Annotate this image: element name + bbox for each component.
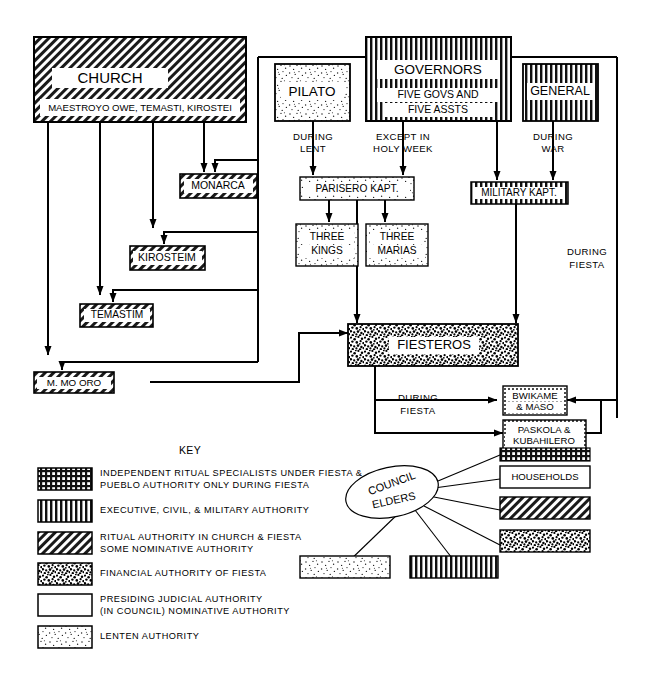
svg-text:FIESTA: FIESTA [400, 405, 435, 416]
node-kirosteim-label: KIROSTEIM [138, 251, 196, 263]
council-box-households-label: HOUSEHOLDS [511, 471, 578, 482]
edge-mmooro-fiesteros [150, 333, 348, 382]
node-pilato-label: PILATO [289, 84, 336, 99]
edge-spine-mmooro [62, 362, 258, 370]
key-label-diagonal-2: SOME NOMINATIVE AUTHORITY [100, 544, 254, 554]
node-paskola-label-1: PASKOLA & [518, 424, 571, 435]
node-parisero-label: PARISERO KAPT. [315, 183, 398, 194]
node-governors[interactable]: GOVERNORS FIVE GOVS AND FIVE ASSTS [366, 37, 511, 121]
node-temastim-label: TEMASTIM [91, 309, 144, 320]
council-box-lenten-stipple[interactable] [300, 556, 390, 578]
node-three-marias[interactable]: THREE MARIAS [366, 224, 428, 266]
edge-spine-temastim [113, 290, 258, 302]
edge-label-during-war: DURING WAR [533, 131, 573, 154]
node-church[interactable]: CHURCH MAESTROYO OWE, TEMASTI, KIROSTEI [34, 37, 246, 122]
node-bwikame-maso[interactable]: BWIKAME & MASO [503, 386, 567, 415]
node-m-mo-oro[interactable]: M. MO ORO [34, 372, 114, 393]
key-label-vertical: EXECUTIVE, CIVIL, & MILITARY AUTHORITY [100, 505, 309, 515]
node-military-kapt[interactable]: MILITARY KAPT. [471, 182, 568, 204]
key-label-lenten-stipple: LENTEN AUTHORITY [100, 631, 199, 641]
key-label-blank-2: (IN COUNCIL) NOMINATIVE AUTHORITY [100, 606, 290, 616]
svg-text:HOLY WEEK: HOLY WEEK [373, 143, 433, 154]
edge-label-during-fiesta-right: DURING FIESTA [567, 246, 607, 270]
council-box-households[interactable]: HOUSEHOLDS [500, 466, 590, 488]
council-box-crosshatch[interactable] [500, 448, 590, 461]
node-three-marias-label-2: MARIAS [377, 245, 416, 256]
node-fiesteros[interactable]: FIESTEROS [348, 324, 518, 366]
node-fiesteros-label: FIESTEROS [397, 337, 471, 352]
key-label-crosshatch-2: PUEBLO AUTHORITY ONLY DURING FIESTA [100, 480, 310, 490]
node-paskola-kubahilero[interactable]: PASKOLA & KUBAHILERO [503, 420, 586, 449]
node-bwikame-label-2: & MASO [516, 401, 553, 412]
edge-spine-kirosteim [164, 232, 258, 244]
node-paskola-label-2: KUBAHILERO [513, 435, 575, 446]
key-swatch-crosshatch [38, 468, 92, 490]
key-entry-blank: PRESIDING JUDICIAL AUTHORITY (IN COUNCIL… [38, 594, 290, 616]
key-swatch-vertical [38, 500, 92, 522]
edge-label-except-holy-week: EXCEPT IN HOLY WEEK [373, 131, 433, 154]
key-label-diagonal-1: RITUAL AUTHORITY IN CHURCH & FIESTA [100, 532, 302, 542]
svg-text:WAR: WAR [541, 143, 564, 154]
node-three-kings-label-1: THREE [310, 231, 345, 242]
key-swatch-diagonal [38, 532, 92, 554]
svg-text:LENT: LENT [300, 143, 326, 154]
key-heading: KEY [179, 444, 201, 456]
node-military-label: MILITARY KAPT. [481, 187, 557, 198]
key-entry-lenten-stipple: LENTEN AUTHORITY [38, 626, 199, 648]
node-bwikame-label-1: BWIKAME [512, 390, 557, 401]
node-pilato[interactable]: PILATO [275, 64, 350, 121]
edge-spine-monarca [215, 160, 258, 172]
node-governors-label: GOVERNORS [394, 62, 482, 77]
key-entry-vertical: EXECUTIVE, CIVIL, & MILITARY AUTHORITY [38, 500, 309, 522]
node-temastim[interactable]: TEMASTIM [80, 304, 153, 327]
node-kirosteim[interactable]: KIROSTEIM [130, 246, 205, 270]
key-swatch-blank [38, 594, 92, 616]
node-governors-sublabel-2: FIVE ASSTS [408, 103, 468, 115]
node-general-label: GENERAL [530, 84, 590, 98]
council-box-dense-stipple[interactable] [500, 530, 590, 552]
svg-text:DURING: DURING [533, 131, 573, 142]
edge-fiesteros-paskola [375, 365, 503, 433]
svg-text:EXCEPT IN: EXCEPT IN [376, 131, 430, 142]
node-monarca-label: MONARCA [191, 179, 245, 191]
node-parisero-kapt[interactable]: PARISERO KAPT. [300, 177, 414, 200]
organization-diagram: CHURCH MAESTROYO OWE, TEMASTI, KIROSTEI … [0, 0, 647, 673]
key-entry-diagonal: RITUAL AUTHORITY IN CHURCH & FIESTA SOME… [38, 532, 302, 554]
key-label-dense-stipple: FINANCIAL AUTHORITY OF FIESTA [100, 568, 267, 578]
svg-text:FIESTA: FIESTA [569, 259, 604, 270]
node-church-sublabel: MAESTROYO OWE, TEMASTI, KIROSTEI [48, 102, 232, 113]
key-label-crosshatch-1: INDEPENDENT RITUAL SPECIALISTS UNDER FIE… [100, 468, 362, 478]
svg-text:DURING: DURING [293, 131, 333, 142]
node-three-marias-label-1: THREE [380, 231, 415, 242]
node-m-mo-oro-label: M. MO ORO [47, 377, 102, 388]
node-three-kings-label-2: KINGS [311, 245, 343, 256]
key-entry-dense-stipple: FINANCIAL AUTHORITY OF FIESTA [38, 563, 267, 585]
key-label-blank-1: PRESIDING JUDICIAL AUTHORITY [100, 594, 263, 604]
key-swatch-lenten-stipple [38, 626, 92, 648]
edge-label-during-lent: DURING LENT [293, 131, 333, 154]
node-monarca[interactable]: MONARCA [180, 174, 257, 198]
key-swatch-dense-stipple [38, 563, 92, 585]
node-three-kings[interactable]: THREE KINGS [296, 224, 358, 266]
svg-text:DURING: DURING [398, 392, 438, 403]
svg-text:DURING: DURING [567, 246, 607, 257]
key-entry-crosshatch: INDEPENDENT RITUAL SPECIALISTS UNDER FIE… [38, 468, 362, 490]
edge-label-during-fiesta-center: DURING FIESTA [398, 392, 438, 416]
council-box-diagonal[interactable] [500, 497, 590, 519]
council-box-vertical[interactable] [410, 556, 498, 578]
node-governors-sublabel-1: FIVE GOVS AND [397, 88, 479, 100]
node-general[interactable]: GENERAL [523, 64, 598, 121]
diagram-canvas: CHURCH MAESTROYO OWE, TEMASTI, KIROSTEI … [0, 0, 647, 673]
node-church-label: CHURCH [78, 69, 143, 86]
